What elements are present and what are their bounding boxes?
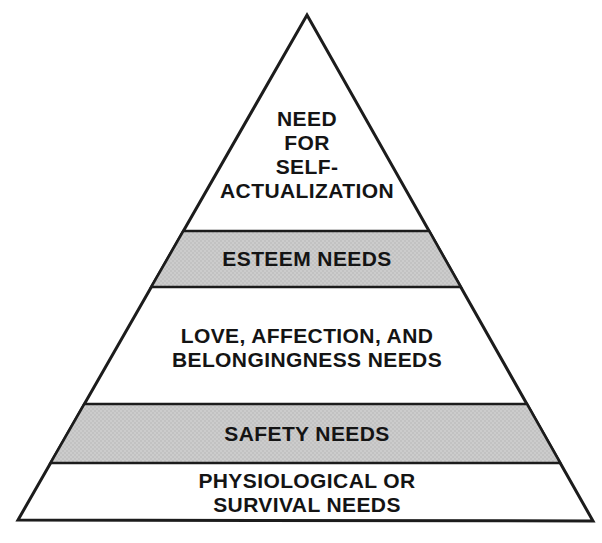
level-label-self-actualization: NEED FOR SELF- ACTUALIZATION (220, 107, 394, 203)
level-label-physiological: PHYSIOLOGICAL OR SURVIVAL NEEDS (160, 469, 455, 517)
level-label-safety: SAFETY NEEDS (224, 422, 389, 446)
level-label-belongingness: LOVE, AFFECTION, AND BELONGINGNESS NEEDS (172, 324, 442, 372)
level-label-esteem: ESTEEM NEEDS (222, 247, 391, 271)
pyramid-graphic (0, 0, 602, 543)
maslow-pyramid-diagram: NEED FOR SELF- ACTUALIZATION ESTEEM NEED… (0, 0, 602, 543)
